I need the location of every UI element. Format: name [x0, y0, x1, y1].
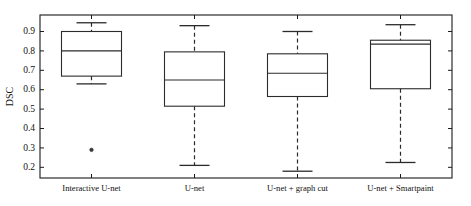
x-tick-label: Interactive U-net	[62, 183, 121, 193]
y-tick-label: 0.6	[23, 84, 35, 94]
y-tick-label: 0.2	[23, 162, 35, 172]
x-tick-label: U-net + Smartpaint	[367, 183, 434, 193]
y-tick-label: 0.8	[23, 46, 35, 56]
boxplot-canvas: 0.20.30.40.50.60.70.80.9 Interactive U-n…	[0, 0, 471, 206]
y-tick-label: 0.5	[23, 104, 35, 114]
y-tick-label: 0.4	[23, 123, 35, 133]
x-tick-label: U-net + graph cut	[267, 183, 329, 193]
y-axis-title-layer: DSC	[4, 86, 15, 106]
y-tick-label: 0.7	[23, 65, 35, 75]
y-axis-title: DSC	[4, 86, 15, 106]
y-tick-label: 0.9	[23, 26, 35, 36]
y-tick-label: 0.3	[23, 143, 35, 153]
x-tick-label: U-net	[185, 183, 205, 193]
outlier-point	[90, 148, 94, 152]
boxplot-figure: 0.20.30.40.50.60.70.80.9 Interactive U-n…	[0, 0, 471, 206]
